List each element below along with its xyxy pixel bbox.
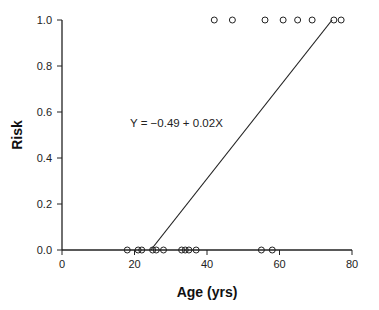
x-tick-label: 0: [59, 258, 65, 270]
data-point: [295, 17, 301, 23]
y-tick-label: 0.6: [37, 106, 52, 118]
data-point: [338, 17, 344, 23]
x-tick-label: 20: [128, 258, 140, 270]
data-point: [229, 17, 235, 23]
data-points: [124, 17, 344, 253]
fit-line: [151, 20, 332, 250]
x-tick-label: 60: [273, 258, 285, 270]
data-point: [262, 17, 268, 23]
regression-equation: Y = −0.49 + 0.02X: [130, 117, 223, 129]
regression-line: [151, 20, 332, 250]
y-tick-label: 0.4: [37, 152, 52, 164]
y-tick-label: 0.0: [37, 244, 52, 256]
data-point: [280, 17, 286, 23]
scatter-chart: 0.00.20.40.60.81.0020406080 Y = −0.49 + …: [0, 0, 379, 310]
y-axis-title: Risk: [9, 120, 25, 150]
data-point: [211, 17, 217, 23]
y-tick-label: 0.8: [37, 60, 52, 72]
x-tick-label: 80: [346, 258, 358, 270]
x-tick-label: 40: [201, 258, 213, 270]
axes: 0.00.20.40.60.81.0020406080: [37, 14, 358, 270]
data-point: [309, 17, 315, 23]
y-tick-label: 0.2: [37, 198, 52, 210]
y-tick-label: 1.0: [37, 14, 52, 26]
x-axis-title: Age (yrs): [177, 284, 238, 300]
